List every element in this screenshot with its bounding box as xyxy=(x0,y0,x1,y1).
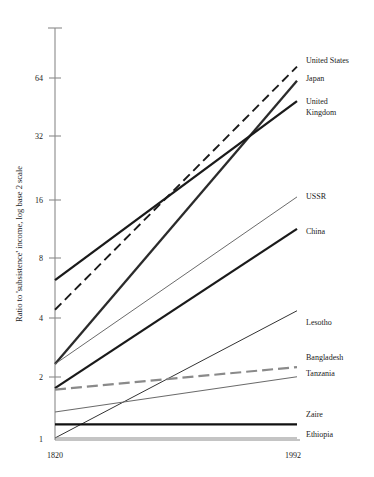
series-label-united-kingdom-line2: Kingdom xyxy=(306,108,337,117)
x-tick-label-end: 1992 xyxy=(285,451,301,460)
y-tick-label-16: 16 xyxy=(35,196,43,205)
y-tick-label-32: 32 xyxy=(35,132,43,141)
y-tick-label-8: 8 xyxy=(39,254,43,263)
income-ratio-line-chart: 64 32 16 8 4 2 1 1820 1992 Ratio to 'sub… xyxy=(0,0,374,477)
series-label-lesotho: Lesotho xyxy=(306,318,332,327)
series-label-ethiopia: Ethiopia xyxy=(306,430,334,439)
series-label-tanzania: Tanzania xyxy=(306,369,335,378)
series-line-tanzania xyxy=(55,377,297,412)
y-tick-label-4: 4 xyxy=(39,314,43,323)
series-line-lesotho xyxy=(55,311,297,438)
series-label-united-kingdom-line1: United xyxy=(306,97,328,106)
series-label-china: China xyxy=(306,227,326,236)
series-label-bangladesh: Bangladesh xyxy=(306,353,343,362)
series-line-bangladesh xyxy=(55,367,297,390)
series-line-united-states xyxy=(55,67,297,310)
series-label-japan: Japan xyxy=(306,74,324,83)
series-label-united-states: United States xyxy=(306,56,349,65)
series-label-ussr: USSR xyxy=(306,192,327,201)
y-tick-label-1: 1 xyxy=(39,435,43,444)
series-lines-group xyxy=(55,67,297,438)
chart-svg: 64 32 16 8 4 2 1 1820 1992 Ratio to 'sub… xyxy=(0,0,374,477)
x-tick-label-start: 1820 xyxy=(47,451,63,460)
y-tick-label-64: 64 xyxy=(35,74,43,83)
series-label-zaire: Zaire xyxy=(306,410,323,419)
y-axis-title: Ratio to 'subsistence' income, log base … xyxy=(14,166,24,322)
y-tick-label-2: 2 xyxy=(39,373,43,382)
